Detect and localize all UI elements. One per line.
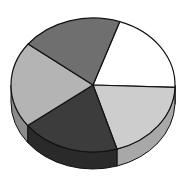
pie-slices — [11, 18, 175, 152]
pie-chart — [0, 0, 187, 182]
